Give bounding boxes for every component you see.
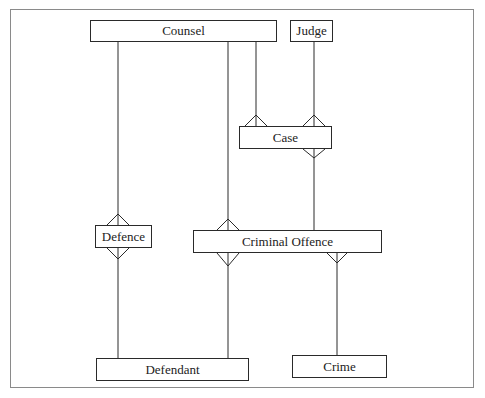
relationship-lines bbox=[0, 0, 485, 398]
entity-counsel: Counsel bbox=[90, 20, 277, 42]
entity-label: Defendant bbox=[145, 362, 199, 378]
entity-crime: Crime bbox=[292, 355, 387, 378]
entity-defendant: Defendant bbox=[96, 358, 249, 381]
entity-case: Case bbox=[239, 126, 332, 149]
entity-criminal-offence: Criminal Offence bbox=[193, 230, 382, 253]
entity-label: Judge bbox=[296, 23, 326, 39]
entity-label: Criminal Offence bbox=[242, 234, 333, 250]
entity-label: Crime bbox=[323, 359, 356, 375]
entity-label: Case bbox=[273, 130, 298, 146]
entity-defence: Defence bbox=[95, 225, 152, 248]
entity-label: Counsel bbox=[162, 23, 205, 39]
entity-label: Defence bbox=[102, 229, 145, 245]
entity-judge: Judge bbox=[290, 20, 333, 42]
er-diagram: Counsel Judge Case Defence Criminal Offe… bbox=[0, 0, 485, 398]
